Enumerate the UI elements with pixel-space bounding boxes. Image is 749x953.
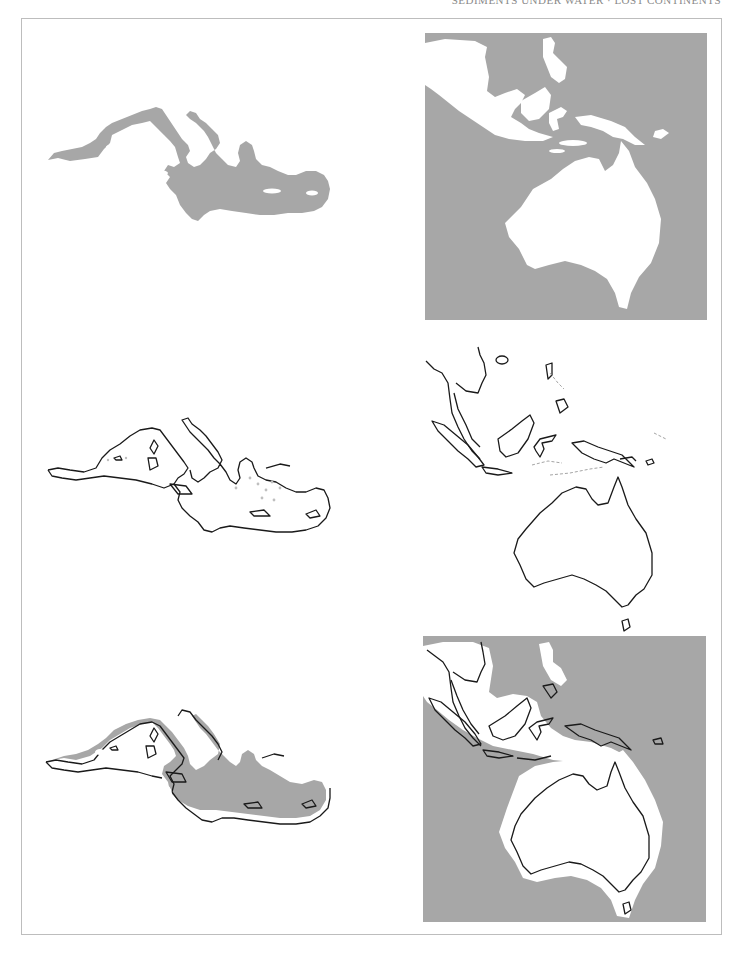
mediterranean-filled-map — [40, 105, 340, 230]
australia-outline-map — [422, 343, 682, 633]
map-australia-filled — [425, 33, 707, 320]
map-mediterranean-outline — [40, 408, 340, 548]
mediterranean-outline-map — [40, 408, 340, 548]
running-head: SEDIMENTS UNDER WATER · LOST CONTINENTS — [452, 0, 721, 6]
map-australia-overlay — [423, 636, 706, 922]
australia-overlay-map — [423, 636, 706, 922]
mediterranean-overlay-map — [40, 700, 340, 835]
map-mediterranean-overlay — [40, 700, 340, 835]
australia-filled-map — [425, 33, 707, 320]
map-mediterranean-filled — [40, 105, 340, 230]
map-australia-outline — [422, 343, 682, 633]
